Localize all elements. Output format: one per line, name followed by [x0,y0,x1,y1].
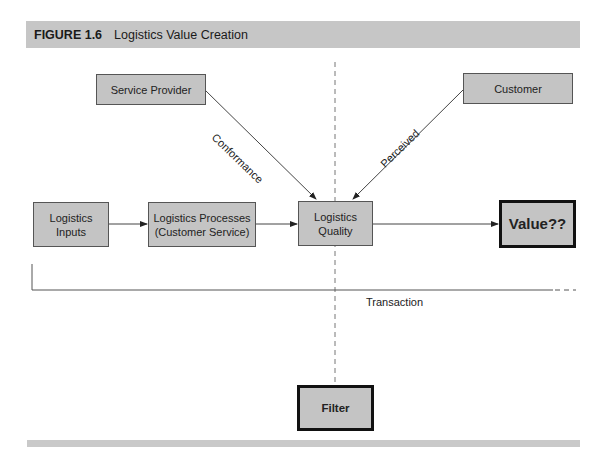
logistics-inputs-label: Logistics Inputs [50,211,93,239]
service-provider-box: Service Provider [96,74,206,105]
customer-label: Customer [494,82,542,96]
logistics-quality-label: Logistics Quality [314,210,357,238]
transaction-line [32,264,553,290]
transaction-label: Transaction [366,296,423,308]
logistics-inputs-box: Logistics Inputs [33,202,109,247]
service-provider-label: Service Provider [111,83,192,97]
customer-box: Customer [463,73,573,104]
logistics-processes-box: Logistics Processes (Customer Service) [148,202,256,247]
figure-footer-bar [27,440,580,447]
value-box: Value?? [499,200,576,248]
filter-label: Filter [321,401,349,415]
filter-box: Filter [297,385,374,431]
logistics-processes-label: Logistics Processes (Customer Service) [153,211,250,239]
logistics-quality-box: Logistics Quality [298,201,373,246]
value-label: Value?? [509,217,567,231]
